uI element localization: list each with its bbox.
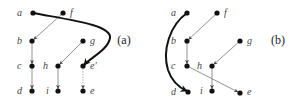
node-i bbox=[209, 88, 214, 93]
node-h bbox=[209, 63, 214, 68]
node-label-e: e bbox=[247, 86, 252, 97]
node-label-g: g bbox=[90, 35, 95, 46]
node-d bbox=[29, 88, 34, 93]
edge-g-to-h bbox=[60, 41, 83, 64]
node-i bbox=[55, 88, 60, 93]
node-label-b: b bbox=[17, 35, 22, 46]
node-label-d: d bbox=[17, 85, 23, 96]
node-label-ep: e' bbox=[90, 60, 97, 71]
node-label-c: c bbox=[17, 60, 22, 71]
panel-b: afbgchdie(b) bbox=[166, 7, 285, 97]
node-ep bbox=[80, 63, 85, 68]
node-label-i: i bbox=[46, 85, 49, 96]
node-label-f: f bbox=[70, 7, 74, 18]
panel-caption: (a) bbox=[117, 33, 130, 47]
panel-a: afbgche'die(a) bbox=[17, 7, 131, 96]
node-a bbox=[184, 10, 189, 15]
panel-caption: (b) bbox=[271, 33, 285, 47]
node-g bbox=[80, 38, 85, 43]
edge-g-to-h bbox=[214, 41, 240, 64]
node-e bbox=[80, 88, 85, 93]
node-f bbox=[60, 10, 65, 15]
node-label-d: d bbox=[171, 86, 177, 97]
edge-a-to-d bbox=[166, 13, 187, 91]
graph-diagram: afbgche'die(a) afbgchdie(b) bbox=[0, 0, 305, 101]
node-label-c: c bbox=[171, 60, 176, 71]
node-label-h: h bbox=[197, 60, 202, 71]
node-label-e: e bbox=[90, 85, 95, 96]
node-a bbox=[30, 10, 35, 15]
edge-a-to-ep bbox=[33, 13, 110, 65]
node-label-g: g bbox=[247, 35, 252, 46]
node-c bbox=[29, 63, 34, 68]
node-g bbox=[237, 38, 242, 43]
node-label-i: i bbox=[200, 85, 203, 96]
node-f bbox=[214, 10, 219, 15]
node-c bbox=[184, 63, 189, 68]
node-h bbox=[55, 63, 60, 68]
node-label-a: a bbox=[17, 7, 22, 18]
node-b bbox=[184, 38, 189, 43]
node-b bbox=[29, 38, 34, 43]
node-d bbox=[185, 89, 190, 94]
node-label-a: a bbox=[171, 7, 176, 18]
edge-f-to-b bbox=[189, 13, 217, 39]
node-label-b: b bbox=[171, 35, 176, 46]
node-label-f: f bbox=[224, 7, 228, 18]
node-e bbox=[237, 90, 242, 95]
node-label-h: h bbox=[43, 60, 48, 71]
